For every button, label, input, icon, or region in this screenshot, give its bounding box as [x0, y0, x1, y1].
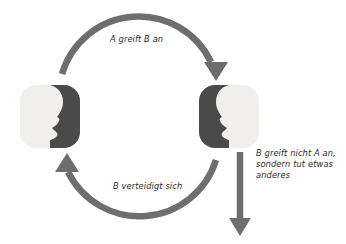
face-profile-left-icon: [199, 85, 259, 148]
diagram-canvas: A greift B an B verteidigt sich B greift…: [0, 0, 346, 244]
label-line-1: B greift nicht A an,: [256, 148, 340, 159]
label-b-defends: B verteidigt sich: [113, 181, 182, 192]
curved-arrow-right-icon: [62, 16, 228, 81]
label-b-does-not-attack: B greift nicht A an, sondern tut etwas a…: [256, 148, 340, 181]
face-profile-right-icon: [20, 85, 80, 148]
label-a-attacks-b: A greift B an: [110, 34, 163, 45]
label-line-3: anderes: [256, 170, 340, 181]
diagram-graphics: [0, 0, 346, 244]
straight-arrow-down-icon: [229, 152, 251, 236]
label-line-2: sondern tut etwas: [256, 159, 340, 170]
